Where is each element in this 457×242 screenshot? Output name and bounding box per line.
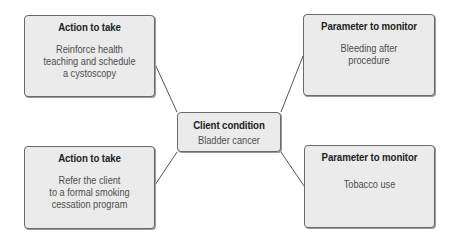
- box-title: Action to take: [30, 21, 149, 33]
- box-title: Action to take: [30, 152, 149, 164]
- box-body: Bleeding after procedure: [309, 43, 429, 67]
- box-title: Parameter to monitor: [309, 20, 429, 32]
- box-body: Refer the client to a formal smoking ces…: [30, 175, 149, 211]
- connector-bottom-left: [155, 152, 177, 185]
- box-body: Bladder cancer: [182, 135, 276, 147]
- connector-top-left: [155, 64, 177, 112]
- client-condition-box: Client condition Bladder cancer: [177, 112, 281, 152]
- box-body: Tobacco use: [310, 179, 429, 191]
- box-body: Reinforce health teaching and schedule a…: [30, 44, 149, 80]
- parameter-box-top-right: Parameter to monitor Bleeding after proc…: [303, 14, 435, 96]
- connector-top-right: [281, 56, 303, 112]
- action-box-top-left: Action to take Reinforce health teaching…: [24, 15, 155, 97]
- connector-bottom-right: [281, 152, 304, 186]
- parameter-box-bottom-right: Parameter to monitor Tobacco use: [304, 145, 435, 228]
- box-title: Parameter to monitor: [310, 151, 429, 163]
- box-title: Client condition: [182, 119, 276, 131]
- action-box-bottom-left: Action to take Refer the client to a for…: [24, 146, 155, 229]
